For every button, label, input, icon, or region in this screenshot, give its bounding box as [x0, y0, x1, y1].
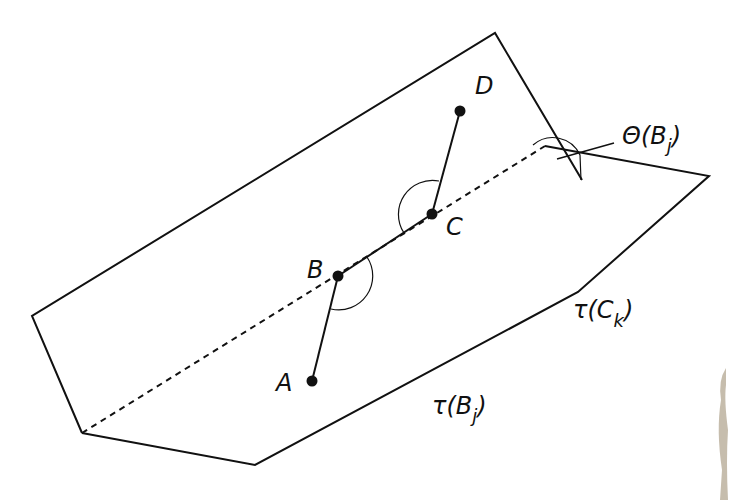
- label-b: B: [307, 256, 323, 284]
- upper-plane-outline: [32, 33, 582, 433]
- point-c: [427, 209, 438, 220]
- angle-arc-b: [331, 257, 373, 310]
- label-d: D: [475, 72, 493, 100]
- point-d: [455, 106, 466, 117]
- label-a: A: [274, 369, 292, 397]
- segment-c-d: [432, 111, 460, 214]
- label-c: C: [446, 213, 463, 241]
- segment-a-b: [312, 276, 338, 381]
- diagram-canvas: A B C D Θ(Bj) τ(Ck) τ(Bj): [0, 0, 746, 500]
- label-tau-c: τ(Ck): [573, 296, 633, 331]
- point-a: [307, 376, 318, 387]
- label-theta: Θ(Bj): [622, 122, 681, 156]
- angle-arc-c: [398, 180, 439, 233]
- point-b: [333, 271, 344, 282]
- label-tau-b: τ(Bj): [432, 392, 487, 426]
- segment-b-c: [338, 214, 432, 276]
- lower-plane-outline: [82, 146, 709, 465]
- hinge-dashed-line: [82, 146, 545, 433]
- paper-smudge: [719, 368, 728, 500]
